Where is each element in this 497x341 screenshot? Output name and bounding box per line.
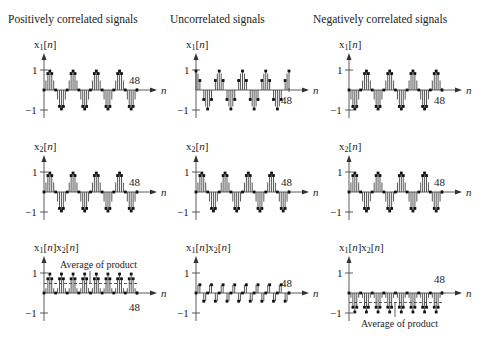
svg-text:x1[n]: x1[n] — [339, 38, 361, 52]
svg-text:48: 48 — [129, 74, 141, 86]
svg-text:1: 1 — [337, 64, 343, 76]
svg-text:1: 1 — [32, 166, 38, 178]
svg-text:48: 48 — [129, 301, 141, 313]
stem-plot-r2-c2: 1−1nx1[n]x2[n]48Average of product — [330, 241, 472, 329]
svg-text:48: 48 — [434, 94, 446, 106]
svg-text:48: 48 — [434, 273, 446, 285]
svg-text:−1: −1 — [330, 104, 342, 116]
svg-text:n: n — [161, 186, 167, 198]
svg-text:−1: −1 — [177, 104, 189, 116]
stem-plot-r0-c1: 1−1nx1[n]48 — [177, 38, 319, 118]
svg-text:1: 1 — [184, 267, 190, 279]
svg-text:1: 1 — [32, 64, 38, 76]
svg-text:n: n — [466, 186, 472, 198]
svg-text:x1[n]x2[n]: x1[n]x2[n] — [34, 241, 79, 255]
svg-text:−1: −1 — [25, 307, 37, 319]
svg-text:Average of product: Average of product — [361, 318, 438, 329]
svg-text:n: n — [466, 287, 472, 299]
svg-text:x2[n]: x2[n] — [339, 140, 361, 154]
svg-text:x2[n]: x2[n] — [34, 140, 56, 154]
svg-text:−1: −1 — [25, 104, 37, 116]
svg-text:Average of product: Average of product — [60, 259, 137, 270]
svg-text:n: n — [313, 84, 319, 96]
svg-text:n: n — [466, 84, 472, 96]
svg-text:1: 1 — [32, 267, 38, 279]
stem-plot-r1-c1: 1−1nx2[n]48 — [177, 140, 319, 220]
svg-text:x1[n]: x1[n] — [34, 38, 56, 52]
svg-text:x1[n]: x1[n] — [186, 38, 208, 52]
svg-text:48: 48 — [434, 176, 446, 188]
stem-plot-r2-c0: 1−1nx1[n]x2[n]48Average of product — [25, 241, 167, 321]
svg-text:n: n — [161, 287, 167, 299]
svg-text:−1: −1 — [177, 307, 189, 319]
svg-text:−1: −1 — [330, 206, 342, 218]
stem-plot-r1-c0: 1−1nx2[n]48 — [25, 140, 167, 220]
svg-text:48: 48 — [281, 94, 293, 106]
svg-text:1: 1 — [184, 64, 190, 76]
svg-text:x2[n]: x2[n] — [186, 140, 208, 154]
stem-plot-r0-c0: 1−1nx1[n]48 — [25, 38, 167, 118]
svg-text:1: 1 — [337, 267, 343, 279]
svg-text:n: n — [313, 186, 319, 198]
stem-plot-r2-c1: 1−1nx1[n]x2[n]48 — [177, 241, 319, 321]
figure-canvas: 1−1nx1[n]481−1nx2[n]481−1nx1[n]x2[n]48Av… — [0, 0, 497, 341]
svg-text:x1[n]x2[n]: x1[n]x2[n] — [186, 241, 231, 255]
svg-text:n: n — [161, 84, 167, 96]
svg-text:48: 48 — [129, 176, 141, 188]
svg-text:−1: −1 — [25, 206, 37, 218]
svg-text:1: 1 — [184, 166, 190, 178]
stem-plot-r1-c2: 1−1nx2[n]48 — [330, 140, 472, 220]
svg-text:x1[n]x2[n]: x1[n]x2[n] — [339, 241, 384, 255]
svg-text:1: 1 — [337, 166, 343, 178]
svg-text:48: 48 — [281, 176, 293, 188]
svg-text:48: 48 — [281, 277, 293, 289]
svg-text:n: n — [313, 287, 319, 299]
svg-text:−1: −1 — [177, 206, 189, 218]
stem-plot-r0-c2: 1−1nx1[n]48 — [330, 38, 472, 118]
svg-text:−1: −1 — [330, 307, 342, 319]
